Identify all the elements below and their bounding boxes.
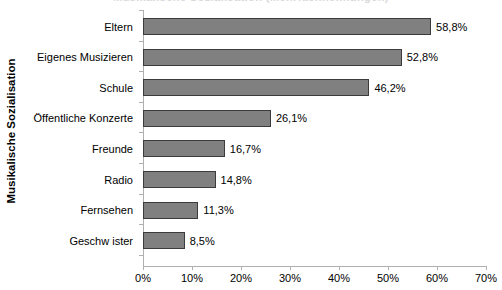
bar	[143, 202, 198, 219]
plot-area: 58,8%52,8%46,2%26,1%16,7%14,8%11,3%8,5%	[143, 10, 486, 266]
value-axis-tick	[290, 266, 291, 270]
category-label: Freunde	[92, 142, 133, 156]
bar	[143, 110, 271, 127]
bar	[143, 171, 216, 188]
category-label: Eigenes Musizieren	[37, 50, 133, 64]
value-axis-tick-label: 40%	[328, 272, 350, 284]
value-axis-tick	[486, 266, 487, 270]
bar-value-label: 26,1%	[276, 111, 307, 125]
category-tick	[139, 194, 143, 195]
category-tick	[139, 255, 143, 256]
category-label: Fernsehen	[80, 203, 133, 217]
category-tick	[139, 102, 143, 103]
bar-value-label: 8,5%	[190, 234, 215, 248]
bar-value-label: 16,7%	[230, 142, 261, 156]
bar	[143, 49, 402, 66]
bar	[143, 140, 225, 157]
value-axis-tick-label: 20%	[230, 272, 252, 284]
category-tick	[139, 71, 143, 72]
value-axis-tick-label: 50%	[377, 272, 399, 284]
value-axis-tick	[241, 266, 242, 270]
bar-value-label: 11,3%	[203, 203, 233, 217]
bar	[143, 18, 431, 35]
bar-chart: Musikalische Sozialisation (Mehrfachnenn…	[0, 0, 502, 290]
value-axis-line	[143, 266, 487, 267]
chart-title-clipped: Musikalische Sozialisation (Mehrfachnenn…	[0, 0, 502, 5]
category-tick	[139, 163, 143, 164]
category-label: Eltern	[104, 20, 133, 34]
value-axis-tick	[388, 266, 389, 270]
category-label: Geschw ister	[69, 234, 133, 248]
category-tick	[139, 41, 143, 42]
value-axis-tick	[192, 266, 193, 270]
y-axis-title-text: Musikalische Sozialisation	[5, 58, 17, 203]
bar-value-label: 14,8%	[221, 173, 252, 187]
bar	[143, 232, 185, 249]
category-tick	[139, 10, 143, 11]
value-axis-tick	[437, 266, 438, 270]
value-axis-tick-label: 60%	[426, 272, 448, 284]
value-axis-tick-label: 10%	[181, 272, 203, 284]
value-axis-tick	[339, 266, 340, 270]
bar	[143, 79, 369, 96]
y-axis-title: Musikalische Sozialisation	[0, 0, 22, 262]
bar-value-label: 52,8%	[407, 50, 438, 64]
category-tick	[139, 132, 143, 133]
category-label: Öffentliche Konzerte	[34, 111, 133, 125]
value-axis-tick-label: 70%	[475, 272, 497, 284]
category-tick	[139, 224, 143, 225]
value-axis-tick	[143, 266, 144, 270]
category-label: Radio	[104, 173, 133, 187]
value-axis-tick-label: 30%	[279, 272, 301, 284]
value-axis-tick-label: 0%	[135, 272, 151, 284]
category-axis-labels: ElternEigenes MusizierenSchuleÖffentlich…	[22, 10, 137, 266]
bar-value-label: 46,2%	[374, 81, 405, 95]
bar-value-label: 58,8%	[436, 20, 467, 34]
category-label: Schule	[99, 81, 133, 95]
